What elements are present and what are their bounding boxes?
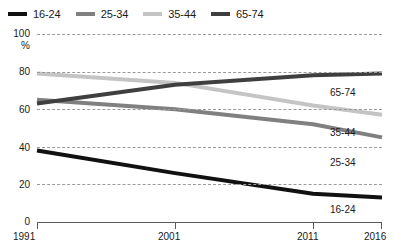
inline-label-16-24: 16-24 (330, 205, 356, 215)
legend-label-16-24: 16-24 (33, 9, 61, 20)
x-label-1991: 1991 (13, 232, 35, 242)
x-label-2001: 2001 (158, 232, 180, 242)
legend-swatch-16-24 (8, 12, 27, 16)
gridline-100 (37, 34, 382, 35)
legend-item-16-24[interactable]: 16-24 (8, 9, 61, 20)
x-axis-line (37, 222, 382, 223)
gridline-60 (37, 109, 382, 110)
y-tick-60: 60 (4, 105, 30, 115)
x-tick-1991 (37, 222, 38, 229)
legend-label-65-74: 65-74 (236, 9, 264, 20)
gridline-80 (37, 72, 382, 73)
x-axis (37, 222, 382, 230)
inline-label-35-44: 35-44 (330, 128, 356, 138)
gridline-20 (37, 184, 382, 185)
gridline-40 (37, 147, 382, 148)
y-tick-40: 40 (4, 143, 30, 153)
legend-label-35-44: 35-44 (168, 9, 196, 20)
x-tick-2016 (381, 222, 382, 229)
legend-swatch-35-44 (143, 12, 162, 16)
chart-page: 16-24 25-34 35-44 65-74 100 % 80 60 40 2… (0, 0, 394, 244)
chart-legend: 16-24 25-34 35-44 65-74 (8, 7, 279, 21)
x-tick-2011 (313, 222, 314, 229)
inline-label-25-34: 25-34 (330, 158, 356, 168)
y-tick-80: 80 (4, 67, 30, 77)
x-label-2016: 2016 (364, 232, 386, 242)
inline-label-65-74: 65-74 (330, 88, 356, 98)
x-tick-2001 (175, 222, 176, 229)
legend-item-65-74[interactable]: 65-74 (211, 9, 264, 20)
legend-swatch-25-34 (76, 12, 95, 16)
legend-item-25-34[interactable]: 25-34 (76, 9, 129, 20)
y-tick-100: 100 (4, 29, 30, 39)
y-axis-unit-label: % (4, 41, 30, 51)
legend-swatch-65-74 (211, 12, 230, 16)
legend-label-25-34: 25-34 (101, 9, 129, 20)
x-label-2011: 2011 (297, 232, 319, 242)
y-tick-20: 20 (4, 180, 30, 190)
y-tick-0: 0 (4, 217, 30, 227)
legend-item-35-44[interactable]: 35-44 (143, 9, 196, 20)
